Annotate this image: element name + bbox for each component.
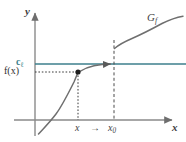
approach-arrow-label: →: [90, 123, 100, 133]
x-tick-label: x: [75, 123, 79, 133]
limit-value-subscript: ℓ: [20, 61, 23, 69]
y-axis-label: y: [25, 6, 30, 17]
curve-label-subscript: f: [155, 16, 157, 25]
limit-diagram-figure: y x cℓ f(x) Gf x → x0: [0, 0, 186, 142]
curve-branch-left: [39, 73, 79, 135]
x0-tick-label: x0: [108, 123, 116, 135]
curve-label-base: G: [147, 11, 155, 23]
curve-label: Gf: [147, 12, 157, 25]
x0-tick-subscript: 0: [112, 127, 116, 135]
point-f-of-x: [75, 69, 80, 74]
x-axis-label: x: [172, 122, 178, 133]
function-value-label: f(x): [4, 66, 19, 76]
figure-canvas: [0, 0, 186, 142]
curve-branch-left-upper: [78, 64, 111, 72]
